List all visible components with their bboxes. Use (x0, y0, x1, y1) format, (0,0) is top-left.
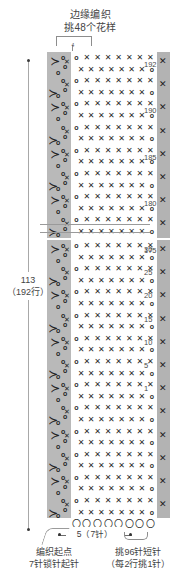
row-number-label: 185 (144, 153, 157, 162)
single-crochet-icon: ✕ (64, 455, 70, 462)
single-crochet-icon: ✕ (124, 472, 135, 484)
single-crochet-icon: ✕ (96, 180, 106, 192)
single-crochet-icon: ✕ (145, 168, 156, 180)
single-crochet-icon: ✕ (124, 333, 135, 345)
single-crochet-icon: ✕ (103, 472, 114, 484)
single-crochet-icon: ✕ (82, 286, 93, 298)
edge-stitch-cell: ✕ (157, 52, 170, 75)
single-crochet-icon: ✕ (113, 333, 124, 345)
edge-stitch-cell: ✕ (157, 379, 170, 402)
single-crochet-icon: ✕ (117, 368, 127, 380)
single-crochet-icon: ✕ (76, 437, 86, 449)
single-crochet-icon: ✕ (106, 275, 116, 287)
edge-stitch-cell: ✕ (157, 240, 170, 263)
single-crochet-icon: ✕ (113, 98, 124, 110)
single-crochet-icon: ✕ (106, 321, 116, 333)
single-crochet-icon: ✕ (145, 122, 156, 134)
single-crochet-icon: ✕ (96, 298, 106, 310)
single-crochet-icon: ✕ (64, 339, 70, 346)
start-note-line2: 7针锁针起针 (6, 558, 102, 570)
shell-stitch-icon: ⋎ (48, 384, 61, 394)
single-crochet-icon: ✕ (137, 483, 147, 495)
single-crochet-icon: ✕ (145, 75, 156, 87)
chain-stitch-icon: o (71, 191, 82, 203)
single-crochet-icon: ✕ (92, 98, 103, 110)
single-crochet-icon: ✕ (113, 356, 124, 368)
single-crochet-icon: ✕ (127, 344, 137, 356)
single-crochet-icon: ✕ (113, 379, 124, 391)
single-crochet-icon: ✕ (82, 75, 93, 87)
single-crochet-icon: ✕ (106, 460, 116, 472)
start-note: 编织起点 7针锁针起针 (6, 546, 102, 570)
motif-cell: ⋎ooo✕ (47, 402, 71, 425)
chain-stitch-icon: o (71, 402, 82, 414)
single-crochet-icon: ✕ (64, 501, 70, 508)
single-crochet-icon: ✕ (106, 133, 116, 145)
single-crochet-icon: ✕ (135, 449, 146, 461)
pickup-note: 挑96针短针 （每2行挑1针） (96, 546, 181, 570)
stitch-row: ✕✕✕✕✕✕✕o (71, 437, 157, 449)
single-crochet-icon: ✕ (82, 310, 93, 322)
single-crochet-icon: ✕ (117, 275, 127, 287)
single-crochet-icon: ✕ (113, 263, 124, 275)
motif-cell: ⋎ooo✕ (47, 122, 71, 145)
chain-stitch-icon: o (147, 507, 157, 519)
single-crochet-icon: ✕ (145, 402, 156, 414)
stitch-row: o✕✕✕✕✕✕✕ (71, 402, 157, 414)
motif-cell: ⋎ooo✕ (47, 145, 71, 168)
motif-cell: ⋎ooo✕ (47, 356, 71, 379)
single-crochet-icon: ✕ (82, 426, 93, 438)
single-crochet-icon: ✕ (124, 98, 135, 110)
single-crochet-icon: ✕ (92, 122, 103, 134)
chain-stitch-icon: o (71, 168, 82, 180)
single-crochet-icon: ✕ (64, 385, 70, 392)
chain-stitch-icon: o (71, 356, 82, 368)
shell-stitch-icon: ⋎ (48, 430, 61, 440)
single-crochet-icon: ✕ (96, 156, 106, 168)
single-crochet-icon: ✕ (103, 402, 114, 414)
single-crochet-icon: ✕ (106, 252, 116, 264)
section-break-line-bottom (40, 232, 150, 233)
single-crochet-icon: ✕ (117, 321, 127, 333)
single-crochet-icon: ✕ (82, 191, 93, 203)
single-crochet-icon: ✕ (159, 477, 167, 486)
stitch-grid: o✕✕✕✕✕✕✕✕✕✕✕✕✕✕oo✕✕✕✕✕✕✕✕✕✕✕✕✕✕oo✕✕✕✕✕✕✕… (71, 240, 157, 518)
chain-stitch-icon: o (71, 379, 82, 391)
stitch-row: o✕✕✕✕✕✕✕ (71, 472, 157, 484)
motif-cell: ⋎ooo✕ (47, 191, 71, 214)
single-crochet-icon: ✕ (159, 431, 167, 440)
single-crochet-icon: ✕ (86, 252, 96, 264)
motif-cell: ⋎ooo✕ (47, 310, 71, 333)
chain-stitch-icon: o (71, 263, 82, 275)
single-crochet-icon: ✕ (86, 275, 96, 287)
single-crochet-icon: ✕ (76, 203, 86, 215)
single-crochet-icon: ✕ (86, 414, 96, 426)
chain-stitch-icon: o (147, 368, 157, 380)
chain-stitch-icon: o (147, 483, 157, 495)
single-crochet-icon: ✕ (76, 460, 86, 472)
single-crochet-icon: ✕ (124, 356, 135, 368)
single-crochet-icon: ✕ (117, 110, 127, 122)
single-crochet-icon: ✕ (159, 173, 167, 182)
single-crochet-icon: ✕ (92, 263, 103, 275)
single-crochet-icon: ✕ (86, 180, 96, 192)
single-crochet-icon: ✕ (145, 449, 156, 461)
single-crochet-icon: ✕ (86, 391, 96, 403)
shell-stitch-icon: ⋎ (48, 57, 61, 67)
single-crochet-icon: ✕ (103, 240, 114, 252)
single-crochet-icon: ✕ (124, 75, 135, 87)
single-crochet-icon: ✕ (76, 483, 86, 495)
single-crochet-icon: ✕ (124, 310, 135, 322)
single-crochet-icon: ✕ (124, 426, 135, 438)
motif-cell: ⋎ooo✕ (47, 286, 71, 309)
single-crochet-icon: ✕ (117, 483, 127, 495)
single-crochet-icon: ✕ (127, 275, 137, 287)
row-number-label: 20 (144, 291, 152, 300)
single-crochet-icon: ✕ (127, 483, 137, 495)
chain-stitch-icon: o (56, 512, 60, 519)
single-crochet-icon: ✕ (103, 333, 114, 345)
stitch-row: o✕✕✕✕✕✕✕ (71, 168, 157, 180)
motif-cell: ⋎ooo✕ (47, 214, 71, 237)
single-crochet-icon: ✕ (124, 168, 135, 180)
chain-stitch-icon: o (147, 437, 157, 449)
